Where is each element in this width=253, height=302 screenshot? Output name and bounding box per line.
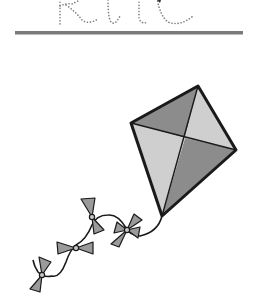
letter-t: [139, 0, 148, 23]
letter-e: [157, 0, 193, 24]
kite: [131, 86, 236, 216]
writing-baseline: [15, 31, 243, 35]
kite-tail-bows: [30, 198, 142, 292]
worksheet-canvas: [0, 0, 253, 302]
traced-letters: [60, 0, 193, 25]
bow-3: [57, 242, 93, 254]
letter-i: [108, 0, 120, 23]
bow-1: [111, 214, 142, 247]
tracing-worksheet: kite: [0, 0, 253, 302]
